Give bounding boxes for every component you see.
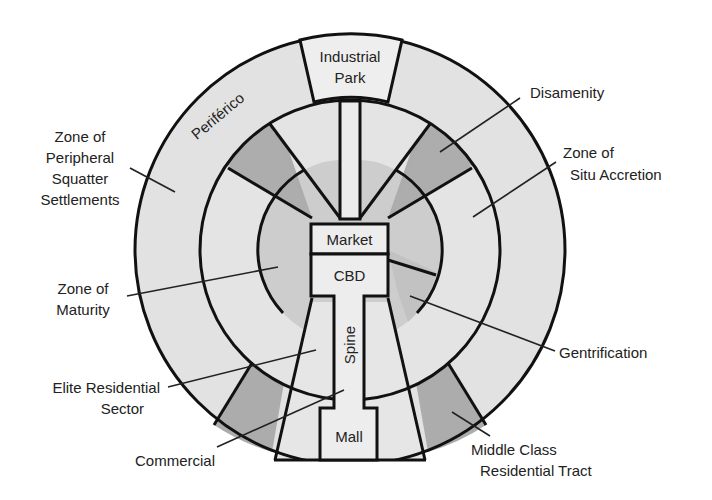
callout-gentrification: Gentrification bbox=[559, 344, 647, 361]
svg-text:Middle Class: Middle Class bbox=[471, 441, 557, 458]
svg-text:Zone of: Zone of bbox=[55, 128, 107, 145]
callout-situ: Zone of Situ Accretion bbox=[563, 144, 662, 183]
svg-text:Maturity: Maturity bbox=[56, 301, 110, 318]
callout-commercial: Commercial bbox=[135, 452, 215, 469]
callout-middle-class: Middle Class Residential Tract bbox=[471, 441, 593, 479]
svg-text:Residential Tract: Residential Tract bbox=[480, 462, 593, 479]
svg-text:Situ Accretion: Situ Accretion bbox=[570, 166, 662, 183]
cbd-label: CBD bbox=[334, 267, 366, 284]
callout-elite: Elite Residential Sector bbox=[52, 379, 160, 417]
city-structure-diagram: Market CBD Spine Mall Industrial Park Pe… bbox=[0, 0, 712, 500]
svg-text:Disamenity: Disamenity bbox=[530, 84, 605, 101]
svg-text:Settlements: Settlements bbox=[40, 191, 119, 208]
svg-text:Sector: Sector bbox=[101, 400, 144, 417]
industrial-corridor bbox=[340, 101, 360, 219]
svg-text:Zone of: Zone of bbox=[58, 280, 110, 297]
svg-text:Squatter: Squatter bbox=[52, 170, 109, 187]
svg-text:Elite Residential: Elite Residential bbox=[52, 379, 160, 396]
mall-label: Mall bbox=[335, 428, 363, 445]
callout-maturity: Zone of Maturity bbox=[56, 280, 110, 318]
svg-text:Gentrification: Gentrification bbox=[559, 344, 647, 361]
svg-text:Commercial: Commercial bbox=[135, 452, 215, 469]
industrial-park-sector bbox=[300, 34, 402, 102]
svg-text:Zone of: Zone of bbox=[563, 144, 615, 161]
svg-text:Peripheral: Peripheral bbox=[46, 149, 114, 166]
industrial-park-label-2: Park bbox=[335, 69, 366, 86]
spine-label: Spine bbox=[341, 326, 358, 364]
market-label: Market bbox=[327, 231, 374, 248]
callout-peripheral: Zone of Peripheral Squatter Settlements bbox=[40, 128, 119, 208]
industrial-park-label-1: Industrial bbox=[320, 48, 381, 65]
callout-disamenity: Disamenity bbox=[530, 84, 605, 101]
